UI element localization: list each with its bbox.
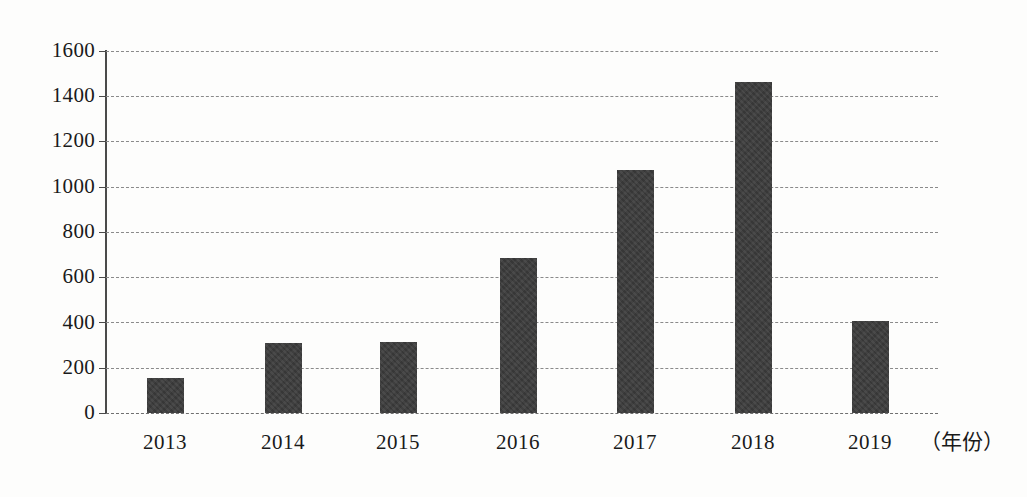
y-tick-label: 200 xyxy=(25,357,95,378)
y-tick-label: 1000 xyxy=(25,176,95,197)
y-tick-label: 400 xyxy=(25,312,95,333)
y-axis-tick xyxy=(99,277,106,278)
x-tick-label-2014: 2014 xyxy=(228,430,338,454)
y-tick-label: 1400 xyxy=(25,85,95,106)
x-tick-label-2019: 2019 xyxy=(815,430,925,454)
y-axis-tick xyxy=(99,322,106,323)
bar-chart: 1600 1400 1200 1000 800 600 400 200 0 xyxy=(0,0,1027,497)
bar-2017[interactable] xyxy=(617,170,654,413)
y-tick-label: 0 xyxy=(25,402,95,423)
x-tick-label-2016: 2016 xyxy=(463,430,573,454)
y-tick-label: 800 xyxy=(25,221,95,242)
bar-2014[interactable] xyxy=(265,343,302,413)
y-axis-tick xyxy=(99,96,106,97)
y-tick-label: 1600 xyxy=(25,40,95,61)
x-axis-title: （年份） xyxy=(920,430,1027,454)
x-tick-label-2013: 2013 xyxy=(110,430,220,454)
bar-2018[interactable] xyxy=(735,82,772,413)
gridline-0-baseline xyxy=(106,413,938,414)
bars-layer xyxy=(106,51,938,413)
x-tick-label-2015: 2015 xyxy=(343,430,453,454)
y-axis-tick xyxy=(99,413,106,414)
y-axis-tick xyxy=(99,51,106,52)
x-tick-label-2018: 2018 xyxy=(698,430,808,454)
bar-2015[interactable] xyxy=(380,342,417,413)
bar-2019[interactable] xyxy=(852,321,889,413)
x-tick-label-2017: 2017 xyxy=(580,430,690,454)
y-axis-tick xyxy=(99,232,106,233)
y-axis-tick xyxy=(99,187,106,188)
x-axis-tick-labels: 2013 2014 2015 2016 2017 2018 2019 xyxy=(0,430,1027,462)
bar-2016[interactable] xyxy=(500,258,537,413)
y-tick-label: 1200 xyxy=(25,130,95,151)
y-axis-tick xyxy=(99,141,106,142)
bar-2013[interactable] xyxy=(147,378,184,413)
y-tick-label: 600 xyxy=(25,266,95,287)
y-axis-tick xyxy=(99,368,106,369)
y-axis-tick-labels: 1600 1400 1200 1000 800 600 400 200 0 xyxy=(20,0,95,497)
